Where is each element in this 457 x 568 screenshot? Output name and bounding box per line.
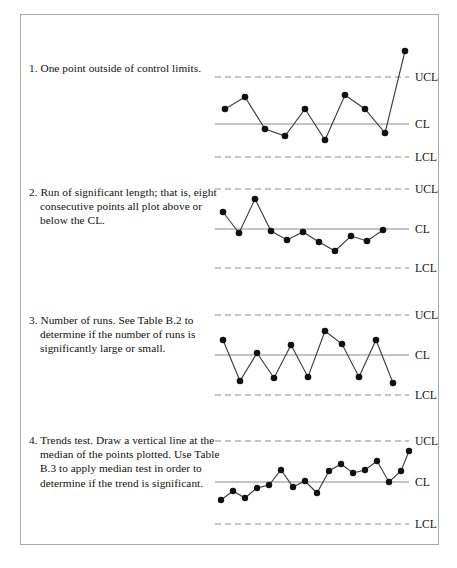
lcl-label: LCL [415, 518, 437, 531]
ucl-label: UCL [415, 309, 438, 322]
control-chart-4-svg: UCL CL LCL [213, 415, 438, 530]
series-polyline [225, 51, 405, 140]
control-chart-4: UCL CL LCL [213, 415, 438, 530]
cl-label: CL [415, 223, 430, 236]
ucl-label: UCL [415, 71, 438, 84]
cl-label: CL [415, 349, 430, 362]
rule-text-2: 2. Run of significant length; that is, e… [29, 185, 226, 228]
ucl-label: UCL [415, 435, 438, 448]
lcl-label: LCL [415, 151, 437, 164]
control-chart-2-svg: UCL CL LCL [213, 171, 438, 279]
series-markers [218, 448, 412, 503]
series-markers [220, 196, 387, 255]
cl-label: CL [415, 118, 430, 131]
rule-text-3: 3. Number of runs. See Table B.2 to dete… [29, 313, 226, 356]
lcl-label: LCL [415, 262, 437, 275]
series-polyline [223, 199, 383, 251]
figure-frame: 1. One point outside of control limits. [20, 14, 439, 545]
rule-text-4: 4. Trends test. Draw a vertical line at … [29, 433, 226, 490]
cl-label: CL [415, 476, 430, 489]
series-markers [222, 48, 409, 144]
control-chart-3: UCL CL LCL [213, 293, 438, 403]
ucl-label: UCL [415, 183, 438, 196]
control-chart-2: UCL CL LCL [213, 171, 438, 279]
rule-text-1: 1. One point outside of control limits. [29, 61, 226, 75]
lcl-label: LCL [415, 389, 437, 402]
control-chart-3-svg: UCL CL LCL [213, 293, 438, 403]
control-chart-1: UCL CL LCL [213, 39, 438, 161]
control-chart-1-svg: UCL CL LCL [213, 39, 438, 161]
series-markers [220, 328, 397, 387]
